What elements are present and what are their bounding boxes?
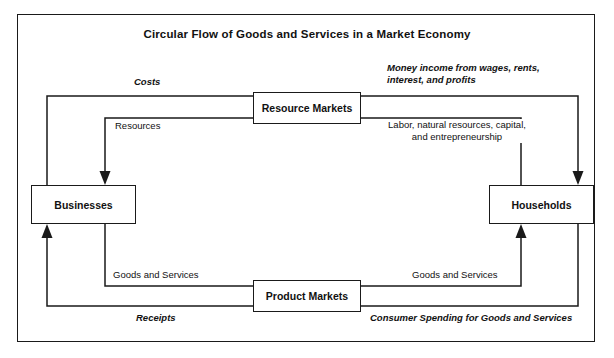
flow-label-goods-services-left: Goods and Services <box>110 269 202 281</box>
node-households: Households <box>489 185 594 224</box>
node-resource-markets: Resource Markets <box>253 92 361 124</box>
circular-flow-diagram: Circular Flow of Goods and Services in a… <box>0 0 614 358</box>
flow-label-money-income: Money income from wages, rents, interest… <box>385 62 579 86</box>
arrowhead-receipts <box>42 224 53 238</box>
flow-label-goods-services-right: Goods and Services <box>409 269 501 281</box>
node-product-markets: Product Markets <box>253 280 361 312</box>
node-businesses: Businesses <box>31 185 136 224</box>
flow-label-consumer-spending: Consumer Spending for Goods and Services <box>367 312 575 324</box>
flow-label-resources: Resources <box>112 120 163 132</box>
arrowhead-goods-right <box>516 224 527 238</box>
arrowhead-money-income <box>573 171 584 185</box>
arrowhead-resources <box>100 171 111 185</box>
flow-path-consumer-spending <box>361 224 578 306</box>
flow-label-costs: Costs <box>131 76 163 88</box>
flow-label-labor: Labor, natural resources, capital, and e… <box>379 119 535 143</box>
flow-label-receipts: Receipts <box>133 312 179 324</box>
